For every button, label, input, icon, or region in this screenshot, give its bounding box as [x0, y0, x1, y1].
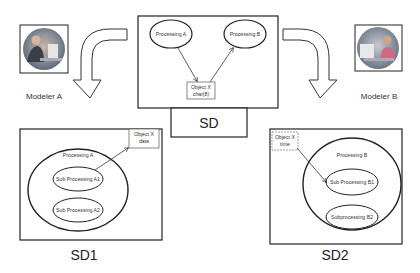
sd-diagram: Processing A Processing B Object X char(… [138, 16, 278, 108]
processing-a-title: Processing A [63, 152, 94, 158]
object-x-type: char(8) [193, 91, 210, 97]
object-x-time-label: Object X [275, 134, 295, 140]
sub-processing-a1-label: Sub Processing A1 [56, 176, 100, 182]
modeler-a-label: Modeler A [26, 92, 63, 101]
object-x-date-label: Object X [134, 131, 154, 137]
sub-processing-a2-label: Sub Processing A2 [56, 207, 100, 213]
sd1-diagram: Processing A Sub Processing A1 Sub Proce… [20, 129, 162, 240]
modeler-b-label: Modeler B [361, 92, 397, 101]
sub-processing-b1-label: Sub Processing B1 [330, 179, 374, 185]
processing-b-label: Processing B [230, 31, 261, 37]
sub-processing-b2-label: Subprocessing B2 [331, 214, 373, 220]
sd-title: SD [199, 115, 218, 131]
sd2-title: SD2 [321, 247, 348, 263]
processing-b-title: Processing B [337, 152, 368, 158]
object-x-time-type: time [280, 141, 290, 147]
diagram-canvas: Modeler A Modeler B Processing A Process… [0, 0, 420, 273]
modeler-b-avatar [355, 25, 402, 71]
object-x-date-type: date [139, 138, 149, 144]
curved-arrow-left-icon [73, 29, 127, 98]
object-x-label: Object X [191, 84, 211, 90]
processing-a-label: Processing A [156, 31, 187, 37]
curved-arrow-right-icon [283, 29, 337, 98]
sd1-title: SD1 [70, 247, 97, 263]
modeler-a-avatar [20, 25, 68, 73]
sd2-diagram: Processing B Sub Processing B1 Subproces… [270, 129, 402, 244]
